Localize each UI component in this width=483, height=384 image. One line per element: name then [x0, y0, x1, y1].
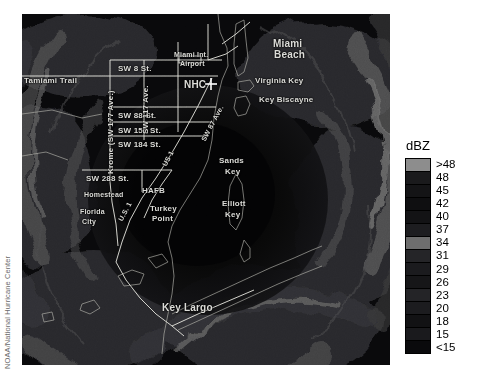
legend-label-29: 29 — [436, 264, 449, 276]
legend-label-18: 18 — [436, 316, 449, 328]
radar-image-panel: Tamiami TrailSW 8 St.Miami Int.AirportNH… — [22, 14, 390, 365]
legend-swatch-15-minus — [406, 341, 430, 353]
legend-label-42: 42 — [436, 198, 449, 210]
legend-label-31: 31 — [436, 250, 449, 262]
legend-label-45: 45 — [436, 185, 449, 197]
radar-reflectivity-plot — [22, 14, 390, 365]
legend-swatch-23 — [406, 289, 430, 302]
credit-watermark: NOAA/National Hurricane Center — [1, 252, 15, 372]
dbz-color-legend: dBZ >4848454240373431292623201815<15 — [400, 138, 480, 363]
legend-label-40: 40 — [436, 211, 449, 223]
legend-swatch-31 — [406, 250, 430, 263]
legend-tick-labels: >4848454240373431292623201815<15 — [436, 158, 478, 354]
legend-label-lt15: <15 — [436, 342, 456, 354]
legend-color-bar — [405, 158, 431, 354]
legend-swatch-48 — [406, 172, 430, 185]
legend-swatch-29 — [406, 263, 430, 276]
legend-label-26: 26 — [436, 277, 449, 289]
legend-label-15: 15 — [436, 329, 449, 341]
legend-label-48: 48 — [436, 172, 449, 184]
legend-swatch-20 — [406, 302, 430, 315]
legend-label-20: 20 — [436, 303, 449, 315]
legend-swatch-18 — [406, 315, 430, 328]
legend-swatch-15 — [406, 328, 430, 341]
legend-label-34: 34 — [436, 237, 449, 249]
legend-title: dBZ — [406, 138, 430, 153]
legend-swatch-48-plus — [406, 159, 430, 172]
legend-label-23: 23 — [436, 290, 449, 302]
legend-swatch-45 — [406, 185, 430, 198]
legend-label-37: 37 — [436, 224, 449, 236]
legend-swatch-34 — [406, 237, 430, 250]
credit-text: NOAA/National Hurricane Center — [4, 255, 13, 368]
legend-swatch-42 — [406, 198, 430, 211]
legend-label-gt48: >48 — [436, 159, 456, 171]
legend-swatch-37 — [406, 224, 430, 237]
legend-swatch-26 — [406, 276, 430, 289]
legend-swatch-40 — [406, 211, 430, 224]
